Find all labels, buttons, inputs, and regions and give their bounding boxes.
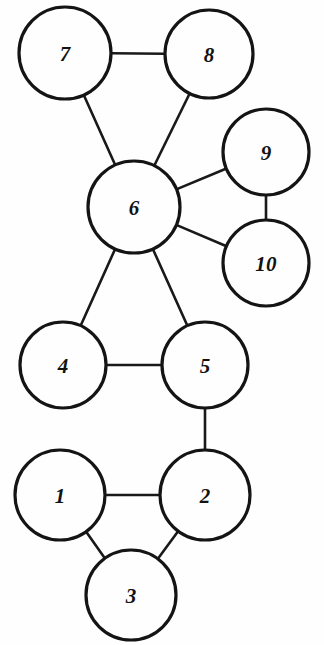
graph-node-label-7: 7 xyxy=(60,42,72,66)
graph-node-8[interactable]: 8 xyxy=(165,10,253,98)
graph-node-label-5: 5 xyxy=(200,354,211,378)
graph-edge-2-3 xyxy=(158,532,178,559)
graph-node-2[interactable]: 2 xyxy=(160,450,250,540)
graph-node-9[interactable]: 9 xyxy=(223,109,309,195)
graph-edge-6-10 xyxy=(177,225,226,246)
graph-node-label-10: 10 xyxy=(255,252,277,276)
graph-node-label-2: 2 xyxy=(199,484,211,508)
graph-node-label-3: 3 xyxy=(125,584,137,608)
graph-node-7[interactable]: 7 xyxy=(19,7,111,99)
graph-node-10[interactable]: 10 xyxy=(223,220,309,306)
graph-edge-6-5 xyxy=(153,249,187,325)
graph-diagram-canvas: 12345678910 xyxy=(0,0,324,645)
graph-node-label-9: 9 xyxy=(261,141,272,165)
graph-node-label-4: 4 xyxy=(57,354,69,378)
graph-node-6[interactable]: 6 xyxy=(88,161,180,253)
graph-svg: 12345678910 xyxy=(0,0,324,645)
graph-node-label-6: 6 xyxy=(129,196,140,220)
graph-node-label-8: 8 xyxy=(204,43,215,67)
graph-edge-6-9 xyxy=(177,169,226,189)
graph-node-1[interactable]: 1 xyxy=(15,450,105,540)
graph-node-5[interactable]: 5 xyxy=(162,322,248,408)
graph-node-3[interactable]: 3 xyxy=(86,550,176,640)
graph-edge-7-6 xyxy=(84,95,115,164)
graph-edge-8-6 xyxy=(154,94,189,165)
graph-node-label-1: 1 xyxy=(55,484,66,508)
node-layer: 12345678910 xyxy=(15,7,309,640)
graph-edge-1-3 xyxy=(86,532,104,558)
graph-edge-6-4 xyxy=(81,249,115,325)
graph-node-4[interactable]: 4 xyxy=(20,322,106,408)
